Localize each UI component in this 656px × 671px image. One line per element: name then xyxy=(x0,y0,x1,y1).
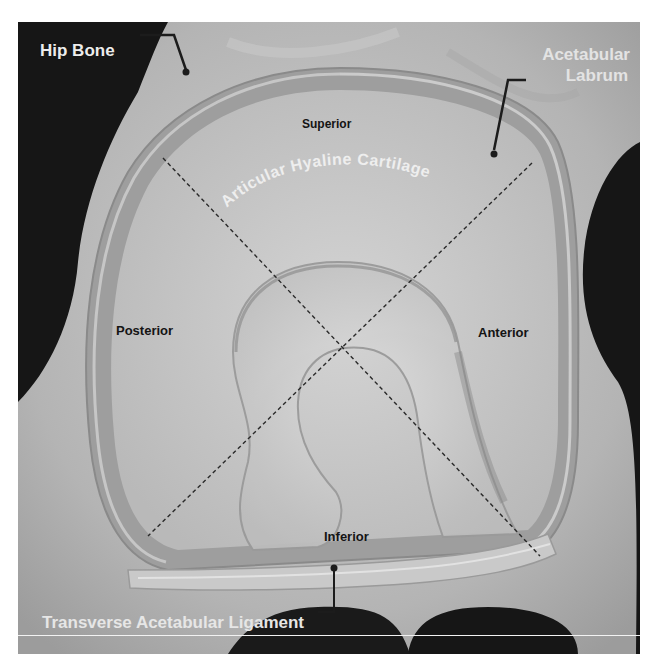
inferior-label: Inferior xyxy=(324,530,369,543)
hip-bone-label: Hip Bone xyxy=(40,42,115,59)
transverse-acetabular-ligament-label: Transverse Acetabular Ligament xyxy=(42,614,304,631)
acetabular-labrum-label: Acetabular Labrum xyxy=(542,44,630,86)
acetabulum-figure: Articular Hyaline Cartilage Hip Bone Ace… xyxy=(18,22,640,654)
pointer-dot-icon xyxy=(183,69,190,76)
posterior-label: Posterior xyxy=(116,324,173,337)
pointer-dot-icon xyxy=(491,151,498,158)
anterior-label: Anterior xyxy=(478,326,529,339)
acetabular-labrum-label-line1: Acetabular xyxy=(542,44,630,65)
pointer-dot-icon xyxy=(331,565,338,572)
bottom-rule-line xyxy=(18,635,640,636)
superior-label: Superior xyxy=(302,118,351,130)
acetabular-labrum-label-line2: Labrum xyxy=(542,65,630,86)
